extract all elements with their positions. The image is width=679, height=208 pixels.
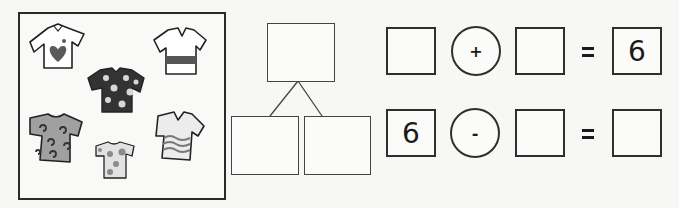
number-bond-connectors (0, 0, 679, 208)
equation-2-first-operand-box[interactable]: 6 (386, 109, 436, 157)
equation-2-second-operand-box[interactable] (515, 109, 565, 157)
number-bond-left-part-box[interactable] (231, 116, 299, 175)
equation-2-minus-operator: - (450, 108, 500, 158)
equation-1-first-operand-box[interactable] (386, 27, 436, 75)
number-bond-whole-box[interactable] (267, 23, 335, 82)
equation-2-result-box[interactable] (612, 109, 662, 157)
equation-1-second-operand-box[interactable] (515, 27, 565, 75)
equation-2-equals-sign (582, 129, 594, 139)
equation-1-result-box[interactable]: 6 (612, 27, 662, 75)
equation-1-equals-sign (582, 47, 594, 57)
number-bond-right-part-box[interactable] (304, 116, 371, 175)
equation-1-plus-operator: + (451, 26, 501, 76)
